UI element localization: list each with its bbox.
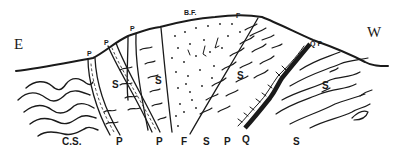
pegmatite-dike-1 [88, 58, 120, 135]
label-p-bottom-3: P [224, 137, 231, 147]
label-f-top: F [236, 12, 240, 19]
label-west: W [367, 25, 381, 40]
label-schist-3: S [237, 71, 244, 81]
label-qp-top: Q P [310, 40, 322, 47]
label-schist-1: S [112, 80, 119, 90]
label-contorted-schist: C.S. [62, 137, 81, 147]
label-schist-4: S [322, 81, 329, 91]
cross-section-drawing [0, 0, 400, 155]
label-f-bottom: F [181, 137, 187, 147]
label-p-bottom-1: P [116, 137, 123, 147]
quartz-vein [245, 44, 310, 128]
label-bf: B.F. [184, 9, 196, 16]
label-s-bottom-1: S [203, 137, 210, 147]
label-p-top-2: P [104, 39, 109, 46]
ground-surface-line [16, 15, 388, 71]
label-p-bottom-2: P [156, 137, 163, 147]
label-schist-2: S [155, 76, 162, 86]
label-p-top-1: P [87, 50, 92, 57]
label-q-bottom: Q [242, 135, 250, 145]
contorted-schist-beds [18, 79, 98, 136]
label-east: E [14, 37, 23, 52]
label-s-bottom-2: S [293, 137, 300, 147]
geological-cross-section: E W B.F. F Q P P P P S S S S C.S. P P F … [0, 0, 400, 155]
breccia-boundary-left [161, 28, 172, 132]
label-p-top-3: P [130, 25, 135, 32]
